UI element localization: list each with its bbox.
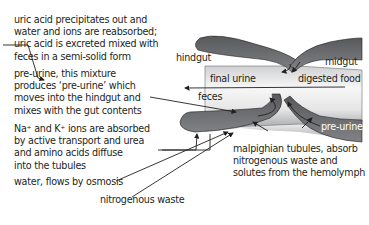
note-ions: Na⁺ and K⁺ ions are absorbed by active t…	[14, 123, 150, 172]
note-line: malpighian tubules, absorb	[233, 143, 365, 155]
note-line: nitrogenous waste and	[233, 155, 365, 167]
note-line: mixes with the gut contents	[14, 105, 142, 117]
note-line: uric acid is excreted mixed with	[14, 38, 158, 50]
note-line: by active transport and urea	[14, 135, 150, 147]
note-line: moves into the hindgut and	[14, 92, 142, 104]
note-line: Na⁺ and K⁺ ions are absorbed	[14, 123, 150, 135]
note-line: into the tubules	[14, 160, 150, 172]
note-line: and amino acids diffuse	[14, 147, 150, 159]
note-line: solutes from the hemolymph	[233, 167, 365, 179]
note-line: pre-urine, this mixture	[14, 68, 142, 80]
label-malpighian-tubules: malpighian tubules, absorb nitrogenous w…	[233, 143, 365, 180]
note-line: nitrogenous waste	[100, 194, 184, 206]
note-pre-urine: pre-urine, this mixture produces ‘pre-ur…	[14, 68, 142, 117]
note-line: uric acid precipitates out and	[14, 14, 158, 26]
note-line: produces ‘pre-urine’ which	[14, 80, 142, 92]
label-midgut: midgut	[325, 56, 358, 68]
label-hindgut: hindgut	[176, 52, 211, 64]
label-digested-food: digested food	[298, 73, 361, 85]
note-nitrogenous-waste: nitrogenous waste	[100, 194, 184, 206]
note-line: feces in a semi-solid form	[14, 51, 158, 63]
note-water: water, flows by osmosis	[14, 176, 123, 188]
label-pre-urine: pre-urine	[321, 121, 363, 133]
note-line: water and ions are reabsorbed;	[14, 26, 158, 38]
label-final-urine: final urine	[210, 73, 256, 85]
note-uric-acid: uric acid precipitates out and water and…	[14, 14, 158, 63]
label-feces: feces	[198, 91, 222, 103]
note-line: water, flows by osmosis	[14, 176, 123, 188]
